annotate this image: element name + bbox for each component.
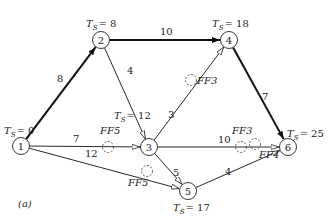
edge-weight-4-6: 7 xyxy=(262,91,268,102)
start-time-label-2: TS= 8 xyxy=(86,18,116,32)
node-number: 2 xyxy=(98,35,104,46)
edge-weight-2-3: 4 xyxy=(127,65,133,76)
network-diagram: 8104737105124 FF5FF3FF3FF5FF4 123456 TS=… xyxy=(0,0,332,222)
edge-3-4 xyxy=(154,47,224,140)
edge-weight-1-5: 12 xyxy=(85,148,98,159)
start-time-label-3: TS= 12 xyxy=(114,110,151,124)
edge-weight-3-5: 5 xyxy=(173,167,179,178)
node-number: 6 xyxy=(285,142,291,153)
edges-group: 8104737105124 xyxy=(26,26,284,189)
free-float-marker xyxy=(186,75,197,86)
node-number: 4 xyxy=(226,35,232,46)
nodes-group: 123456 xyxy=(13,32,297,200)
node-4: 4 xyxy=(221,32,238,49)
edge-weight-3-6: 10 xyxy=(218,134,231,145)
node-number: 5 xyxy=(185,186,191,197)
edge-weight-2-4: 10 xyxy=(160,26,173,37)
free-float-marker xyxy=(142,166,153,177)
start-time-label-1: TS= 0 xyxy=(4,125,34,139)
node-3: 3 xyxy=(141,139,158,156)
node-5: 5 xyxy=(180,183,197,200)
edge-1-3 xyxy=(29,146,140,147)
edge-weight-5-6: 4 xyxy=(225,166,231,177)
node-2: 2 xyxy=(93,32,110,49)
free-float-label: FF5 xyxy=(99,125,120,136)
edge-1-2 xyxy=(26,47,95,139)
free-float-label: FF5 xyxy=(127,177,148,188)
edge-weight-1-2: 8 xyxy=(57,73,63,84)
free-float-label: FF3 xyxy=(231,125,252,136)
figure-caption: (a) xyxy=(18,198,32,209)
node-number: 3 xyxy=(146,142,152,153)
edge-weight-1-3: 7 xyxy=(73,133,79,144)
free-float-label: FF3 xyxy=(196,75,217,86)
free-float-label: FF4 xyxy=(258,149,279,160)
start-time-label-4: TS= 18 xyxy=(212,18,249,32)
free-float-marker xyxy=(250,139,261,150)
node-number: 1 xyxy=(18,141,24,152)
node-1: 1 xyxy=(13,138,30,155)
edge-weight-3-4: 3 xyxy=(168,109,174,120)
start-time-label-5: TS= 17 xyxy=(173,202,210,216)
edge-1-5 xyxy=(29,148,179,188)
labels-group: TS= 0TS= 8TS= 12TS= 18TS= 17TS= 25 xyxy=(4,18,324,216)
free-floats-group: FF5FF3FF3FF5FF4 xyxy=(99,75,279,189)
